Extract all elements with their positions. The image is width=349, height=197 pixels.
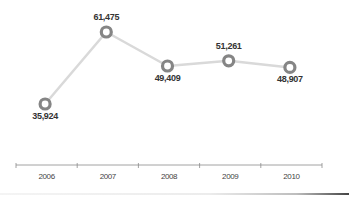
value-label-2007: 61,475 bbox=[93, 12, 119, 22]
bottom-divider bbox=[0, 193, 349, 195]
x-label-2008: 2008 bbox=[161, 172, 177, 181]
data-point-marker-2009 bbox=[224, 56, 234, 66]
data-point-marker-2006 bbox=[40, 99, 50, 109]
markers bbox=[40, 27, 295, 109]
data-point-marker-2010 bbox=[285, 62, 295, 72]
data-point-marker-2007 bbox=[101, 27, 111, 37]
x-label-2010: 2010 bbox=[283, 172, 299, 181]
value-label-2006: 35,924 bbox=[32, 111, 58, 121]
value-label-2009: 51,261 bbox=[216, 41, 242, 51]
data-point-marker-2008 bbox=[163, 61, 173, 71]
x-label-2009: 2009 bbox=[222, 172, 238, 181]
value-label-2008: 49,409 bbox=[155, 73, 181, 83]
x-axis-ticks bbox=[16, 163, 322, 168]
x-label-2006: 2006 bbox=[38, 172, 54, 181]
line-chart bbox=[0, 0, 349, 197]
value-label-2010: 48,907 bbox=[277, 74, 303, 84]
x-label-2007: 2007 bbox=[100, 172, 116, 181]
